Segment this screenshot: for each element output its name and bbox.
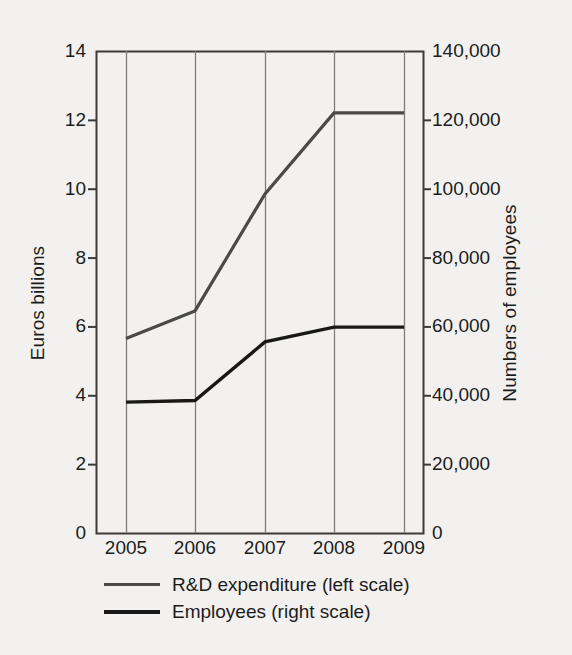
y-axis-left-title: Euros billions: [27, 203, 49, 403]
legend-item-2: Employees (right scale): [104, 598, 464, 625]
chart-legend: R&D expenditure (left scale)Employees (r…: [104, 571, 464, 625]
x-tick-label-2006: 2006: [155, 538, 235, 557]
legend-line-swatch: [104, 610, 160, 614]
y-tick-label-right-100000: 100,000: [432, 179, 501, 198]
plot-frame: [97, 52, 424, 534]
x-tick-label-2007: 2007: [225, 538, 305, 557]
y-tick-label-right-60000: 60,000: [432, 316, 490, 335]
y-tick-label-right-140000: 140,000: [432, 41, 501, 60]
y-tick-label-left-2: 2: [0, 454, 86, 473]
y-tick-label-right-20000: 20,000: [432, 454, 490, 473]
x-tick-label-2005: 2005: [86, 538, 166, 557]
y-tick-label-left-12: 12: [0, 110, 86, 129]
legend-label: R&D expenditure (left scale): [172, 574, 410, 596]
x-tick-label-2009: 2009: [364, 538, 444, 557]
y-axis-right-title: Numbers of employees: [499, 203, 521, 403]
x-tick-label-2008: 2008: [294, 538, 374, 557]
y-tick-label-left-14: 14: [0, 41, 86, 60]
y-tick-label-right-80000: 80,000: [432, 248, 490, 267]
legend-line-swatch: [104, 583, 160, 586]
y-tick-label-left-8: 8: [0, 248, 86, 267]
y-tick-label-right-40000: 40,000: [432, 385, 490, 404]
y-tick-label-left-6: 6: [0, 316, 86, 335]
y-tick-label-left-10: 10: [0, 179, 86, 198]
legend-label: Employees (right scale): [172, 601, 371, 623]
legend-item-1: R&D expenditure (left scale): [104, 571, 464, 598]
chart-figure: Euros billions Numbers of employees 0246…: [0, 0, 572, 655]
y-tick-label-left-4: 4: [0, 385, 86, 404]
y-tick-label-left-0: 0: [0, 523, 86, 542]
y-tick-label-right-120000: 120,000: [432, 110, 501, 129]
